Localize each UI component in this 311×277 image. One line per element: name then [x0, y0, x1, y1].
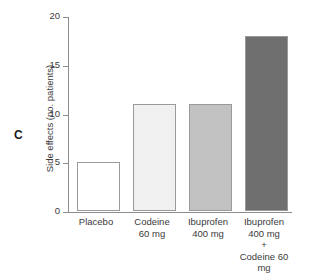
bar-3	[189, 104, 232, 211]
y-tick-5: 5	[68, 163, 69, 164]
x-axis-label-line: Codeine	[124, 216, 180, 228]
panel-letter-label: C	[14, 128, 23, 142]
y-tick-label: 10	[49, 108, 60, 119]
y-tick-label: 20	[49, 10, 60, 21]
y-tick-15: 15	[68, 66, 69, 67]
y-tick-label: 5	[55, 156, 60, 167]
x-axis-label-line: 400 mg	[180, 228, 236, 240]
x-axis-label-line: Ibuprofen	[236, 216, 292, 228]
y-tick-label: 15	[49, 59, 60, 70]
x-axis-label-line: 60 mg	[124, 228, 180, 240]
plot-area: 05101520 PlaceboCodeine60 mgIbuprofen400…	[68, 17, 292, 212]
x-axis-label-1: Placebo	[68, 216, 124, 228]
x-axis-line	[68, 212, 292, 213]
y-tick-mark	[63, 212, 68, 213]
y-tick-mark	[63, 66, 68, 67]
y-tick-mark	[63, 115, 68, 116]
x-axis-label-line: Ibuprofen	[180, 216, 236, 228]
x-axis-label-line: Placebo	[68, 216, 124, 228]
y-tick-label: 0	[55, 205, 60, 216]
x-axis-label-line: Codeine 60 mg	[236, 251, 292, 274]
figure-panel: C Side effects (no. patients) 05101520 P…	[0, 0, 311, 277]
bar-4	[245, 36, 288, 212]
y-tick-mark	[63, 17, 68, 18]
y-tick-20: 20	[68, 17, 69, 18]
bar-1	[77, 162, 120, 211]
x-axis-label-line: +	[236, 239, 292, 251]
y-tick-10: 10	[68, 115, 69, 116]
y-tick-mark	[63, 163, 68, 164]
x-axis-label-2: Codeine60 mg	[124, 216, 180, 239]
y-tick-0: 0	[68, 212, 69, 213]
bar-2	[133, 104, 176, 211]
x-axis-label-line: 400 mg	[236, 228, 292, 240]
y-axis-title: Side effects (no. patients)	[44, 19, 55, 219]
x-axis-label-3: Ibuprofen400 mg	[180, 216, 236, 239]
x-axis-label-4: Ibuprofen400 mg+Codeine 60 mg	[236, 216, 292, 274]
